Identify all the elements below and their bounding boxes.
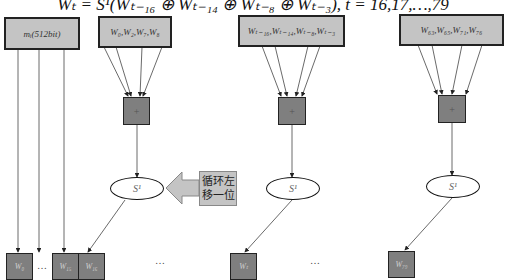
source-box-2: Wₜ₋₁₆,Wₜ₋₁₄,Wₜ₋₈,Wₜ₋₃	[238, 15, 345, 47]
rotate-left-callout: 循环左 移一位	[199, 171, 237, 206]
xor-box-1: +	[123, 97, 150, 125]
word-w79-label: W₇₉	[395, 260, 407, 269]
ellipsis-middle-right: …	[310, 255, 320, 266]
word-box-wt: Wₜ	[230, 253, 257, 280]
ellipsis-middle-left: …	[155, 255, 165, 266]
input-message-label: mᵢ(512bit)	[24, 29, 61, 39]
xor-box-3: +	[438, 95, 466, 123]
word-w15-label: W₁₅	[59, 262, 71, 271]
left-arrow-icon	[166, 172, 199, 204]
callout-line-1: 循环左	[200, 175, 236, 189]
xor-symbol: +	[449, 104, 455, 115]
word-box-w16: W₁₆	[78, 253, 105, 280]
word-box-w0: W₀	[6, 253, 33, 280]
word-wt-label: Wₜ	[239, 262, 248, 271]
word-w0-label: W₀	[15, 262, 24, 271]
rotate-label-3: S¹	[449, 181, 457, 192]
word-w16-label: W₁₆	[85, 262, 97, 271]
word-box-w15: W₁₅	[52, 253, 79, 280]
source-box-3-label: W₆₃,W₆₅,W₇₁,W₇₆	[421, 25, 483, 35]
ellipsis-bottom-left: …	[37, 260, 47, 271]
input-message-box: mᵢ(512bit)	[4, 17, 80, 50]
callout-line-2: 移一位	[200, 189, 236, 203]
rotate-node-2: S¹	[266, 177, 320, 200]
rotate-node-3: S¹	[426, 175, 480, 198]
xor-box-2: +	[278, 97, 306, 125]
source-box-2-label: Wₜ₋₁₆,Wₜ₋₁₄,Wₜ₋₈,Wₜ₋₃	[248, 26, 336, 36]
rotate-label-2: S¹	[289, 183, 297, 194]
source-box-1: W₀,W₂,W₇,W₈	[98, 16, 172, 48]
source-box-3: W₆₃,W₆₅,W₇₁,W₇₆	[399, 14, 504, 46]
xor-symbol: +	[134, 106, 140, 117]
source-box-1-label: W₀,W₂,W₇,W₈	[110, 27, 159, 37]
xor-symbol: +	[289, 106, 295, 117]
word-box-w79: W₇₉	[388, 251, 415, 278]
rotate-node-1: S¹	[110, 177, 164, 200]
rotate-label-1: S¹	[133, 183, 141, 194]
